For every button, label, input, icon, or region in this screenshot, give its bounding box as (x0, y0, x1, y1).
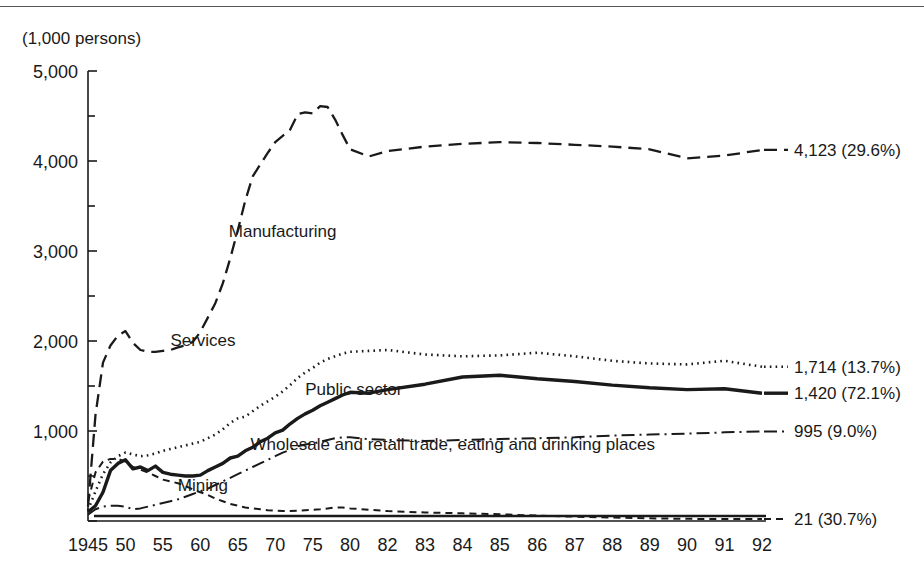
y-tick-label: 3,000 (33, 242, 78, 262)
series-inline-label: Manufacturing (229, 222, 337, 241)
x-tick-label: 86 (527, 535, 547, 555)
x-tick-label: 88 (602, 535, 622, 555)
series-inline-label: Mining (178, 476, 228, 495)
series-inline-label: Public sector (305, 380, 403, 399)
x-tick-label: 55 (153, 535, 173, 555)
x-tick-label: 70 (265, 535, 285, 555)
y-tick-label: 4,000 (33, 152, 78, 172)
x-tick-label: 87 (565, 535, 585, 555)
x-tick-label: 80 (340, 535, 360, 555)
x-tick-label: 84 (452, 535, 472, 555)
x-tick-label: 83 (415, 535, 435, 555)
x-tick-label: 65 (228, 535, 248, 555)
x-tick-label: 75 (303, 535, 323, 555)
x-tick-label: 85 (490, 535, 510, 555)
x-tick-label: 92 (752, 535, 772, 555)
y-tick-label: 1,000 (33, 422, 78, 442)
x-tick-label: 91 (715, 535, 735, 555)
series-end-label: 1,420 (72.1%) (794, 384, 901, 403)
figure-employment-by-industry: (1,000 persons) 1,0002,0003,0004,0005,00… (0, 0, 924, 579)
x-tick-label: 89 (640, 535, 660, 555)
series-inline-label: Wholesale and retail trade, eating and d… (251, 435, 655, 454)
series-end-label: 995 (9.0%) (794, 422, 877, 441)
series-end-label: 4,123 (29.6%) (794, 141, 901, 160)
x-tick-label: 60 (190, 535, 210, 555)
series-inline-label: Services (170, 331, 235, 350)
series-end-labels: 4,123 (29.6%)1,714 (13.7%)1,420 (72.1%)9… (764, 141, 901, 529)
y-tick-label: 2,000 (33, 332, 78, 352)
series-end-label: 1,714 (13.7%) (794, 358, 901, 377)
series-end-label: 21 (30.7%) (794, 510, 877, 529)
series-paths (88, 106, 762, 519)
line-chart: (1,000 persons) 1,0002,0003,0004,0005,00… (0, 0, 924, 579)
y-axis-unit-label: (1,000 persons) (22, 29, 141, 48)
x-tick-label: 90 (677, 535, 697, 555)
x-tick-label: 1945 (68, 535, 108, 555)
x-tick-label: 82 (378, 535, 398, 555)
y-tick-label: 5,000 (33, 62, 78, 82)
x-axis-ticks: 1945505560657075808283848586878889909192 (68, 535, 772, 555)
x-tick-label: 50 (115, 535, 135, 555)
